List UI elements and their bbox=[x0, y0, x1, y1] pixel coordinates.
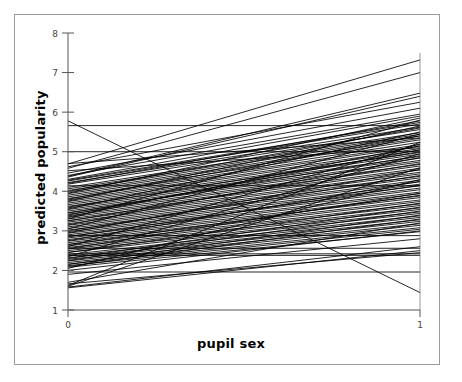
y-tick-label: 5 bbox=[52, 147, 58, 157]
y-axis-title: predicted popularity bbox=[33, 68, 48, 268]
data-line bbox=[68, 114, 420, 175]
figure-container: 1234567801 pupil sex predicted popularit… bbox=[0, 0, 462, 382]
y-tick-label: 1 bbox=[52, 306, 58, 316]
y-tick-label: 3 bbox=[52, 226, 58, 236]
data-lines-group bbox=[68, 60, 420, 293]
y-tick-label: 6 bbox=[52, 108, 58, 118]
x-tick-label: 1 bbox=[417, 320, 423, 330]
y-tick-label: 7 bbox=[52, 68, 58, 78]
y-tick-label: 4 bbox=[52, 187, 58, 197]
x-tick-label: 0 bbox=[65, 320, 71, 330]
x-axis-title: pupil sex bbox=[0, 336, 462, 351]
y-tick-label: 8 bbox=[52, 29, 58, 39]
y-tick-label: 2 bbox=[52, 266, 58, 276]
spaghetti-plot: 1234567801 bbox=[0, 0, 462, 382]
